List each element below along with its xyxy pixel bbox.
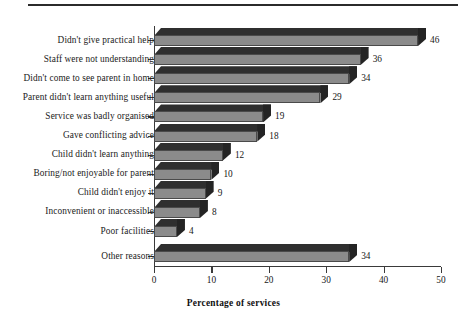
bar-value-label: 12 <box>235 151 244 160</box>
bar-end-face <box>418 28 426 46</box>
category-label: Didn't give practical help <box>58 36 154 45</box>
bar-value-label: 8 <box>212 208 217 217</box>
bar-value-label: 34 <box>361 74 370 83</box>
chart-figure: 01020304050 Percentage of services Didn'… <box>0 0 467 328</box>
x-axis-tick <box>326 267 327 273</box>
bar <box>154 181 214 199</box>
category-label: Poor facilities <box>101 227 154 236</box>
x-axis-tick <box>441 267 442 273</box>
bar-end-face <box>361 47 369 65</box>
bar-value-label: 29 <box>332 93 341 102</box>
bar-front-face <box>154 54 361 65</box>
bar <box>154 200 208 218</box>
bar-front-face <box>154 188 206 199</box>
bar <box>154 85 328 103</box>
category-label: Other reasons <box>101 252 154 261</box>
x-axis-line <box>154 266 441 267</box>
bar-front-face <box>154 226 177 237</box>
bar-front-face <box>154 111 263 122</box>
plot-area: 01020304050 <box>0 0 467 328</box>
x-axis-tick-label: 30 <box>322 276 331 285</box>
x-axis-tick <box>384 267 385 273</box>
bar <box>154 66 357 84</box>
category-label: Child didn't learn anything <box>52 150 154 159</box>
bar-end-face <box>200 200 208 218</box>
bar-value-label: 10 <box>223 170 232 179</box>
bar-front-face <box>154 35 418 46</box>
x-axis-tick-label: 10 <box>207 276 216 285</box>
category-label: Staff were not understanding <box>44 55 154 64</box>
bar-end-face <box>349 66 357 84</box>
bar <box>154 143 231 161</box>
x-axis-tick <box>211 267 212 273</box>
bar-value-label: 34 <box>361 252 370 261</box>
bar <box>154 162 219 180</box>
bar-end-face <box>257 124 265 142</box>
x-axis-tick-label: 0 <box>152 276 157 285</box>
category-label: Service was badly organised <box>45 112 154 121</box>
category-label: Gave conflicting advice <box>63 131 154 140</box>
bar <box>154 244 357 262</box>
category-label: Didn't come to see parent in home <box>24 74 154 83</box>
bar <box>154 219 185 237</box>
bar-value-label: 9 <box>218 189 223 198</box>
x-axis-tick-label: 20 <box>264 276 273 285</box>
bar-front-face <box>154 92 320 103</box>
bar-value-label: 19 <box>275 112 284 121</box>
category-label: Inconvenient or inaccessible <box>45 207 154 216</box>
category-label: Parent didn't learn anything useful <box>23 93 154 102</box>
bar-front-face <box>154 73 349 84</box>
x-axis-title: Percentage of services <box>0 298 467 308</box>
bar-value-label: 18 <box>269 132 278 141</box>
bar-value-label: 46 <box>430 36 439 45</box>
category-label: Child didn't enjoy it <box>78 188 154 197</box>
bar-end-face <box>349 244 357 262</box>
bar-end-face <box>211 162 219 180</box>
bar-end-face <box>263 104 271 122</box>
bar-value-label: 36 <box>373 55 382 64</box>
bar <box>154 104 271 122</box>
bar <box>154 47 369 65</box>
bar-front-face <box>154 150 223 161</box>
bar-end-face <box>206 181 214 199</box>
x-axis-tick-label: 40 <box>379 276 388 285</box>
bar-end-face <box>223 143 231 161</box>
bar-value-label: 4 <box>189 227 194 236</box>
bar-front-face <box>154 207 200 218</box>
bar-end-face <box>177 219 185 237</box>
bar <box>154 124 265 142</box>
bar-end-face <box>320 85 328 103</box>
bar-front-face <box>154 169 211 180</box>
category-label: Boring/not enjoyable for parent <box>33 169 154 178</box>
bar <box>154 28 426 46</box>
bar-front-face <box>154 251 349 262</box>
x-axis-tick <box>269 267 270 273</box>
x-axis-tick <box>154 267 155 273</box>
x-axis-tick-label: 50 <box>436 276 445 285</box>
bar-front-face <box>154 131 257 142</box>
